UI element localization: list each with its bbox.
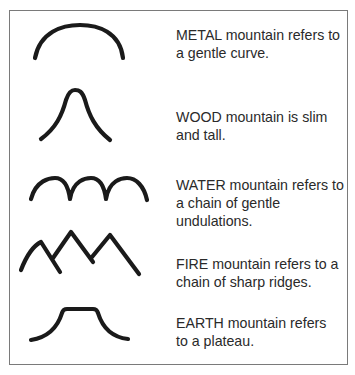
- metal-line-2: a gentle curve.: [176, 44, 346, 62]
- wood-line-2: and tall.: [176, 126, 346, 144]
- earth-mountain-icon: [31, 309, 128, 340]
- earth-line-2: to a plateau.: [176, 332, 346, 350]
- earth-description: EARTH mountain refers to a plateau.: [176, 314, 346, 350]
- water-mountain-icon: [31, 178, 147, 200]
- fire-description: FIRE mountain refers to a chain of sharp…: [176, 255, 346, 291]
- water-line-1: WATER mountain refers to: [176, 176, 346, 194]
- metal-description: METAL mountain refers to a gentle curve.: [176, 26, 346, 62]
- earth-line-1: EARTH mountain refers: [176, 314, 346, 332]
- fire-line-2: chain of sharp ridges.: [176, 273, 346, 291]
- metal-mountain-icon: [35, 25, 123, 58]
- water-line-3: undulations.: [176, 212, 346, 230]
- water-line-2: a chain of gentle: [176, 194, 346, 212]
- metal-line-1: METAL mountain refers to: [176, 26, 346, 44]
- wood-description: WOOD mountain is slim and tall.: [176, 108, 346, 144]
- wood-mountain-icon: [41, 90, 110, 140]
- fire-mountain-icon: [21, 232, 139, 274]
- water-description: WATER mountain refers to a chain of gent…: [176, 176, 346, 230]
- wood-line-1: WOOD mountain is slim: [176, 108, 346, 126]
- fire-line-1: FIRE mountain refers to a: [176, 255, 346, 273]
